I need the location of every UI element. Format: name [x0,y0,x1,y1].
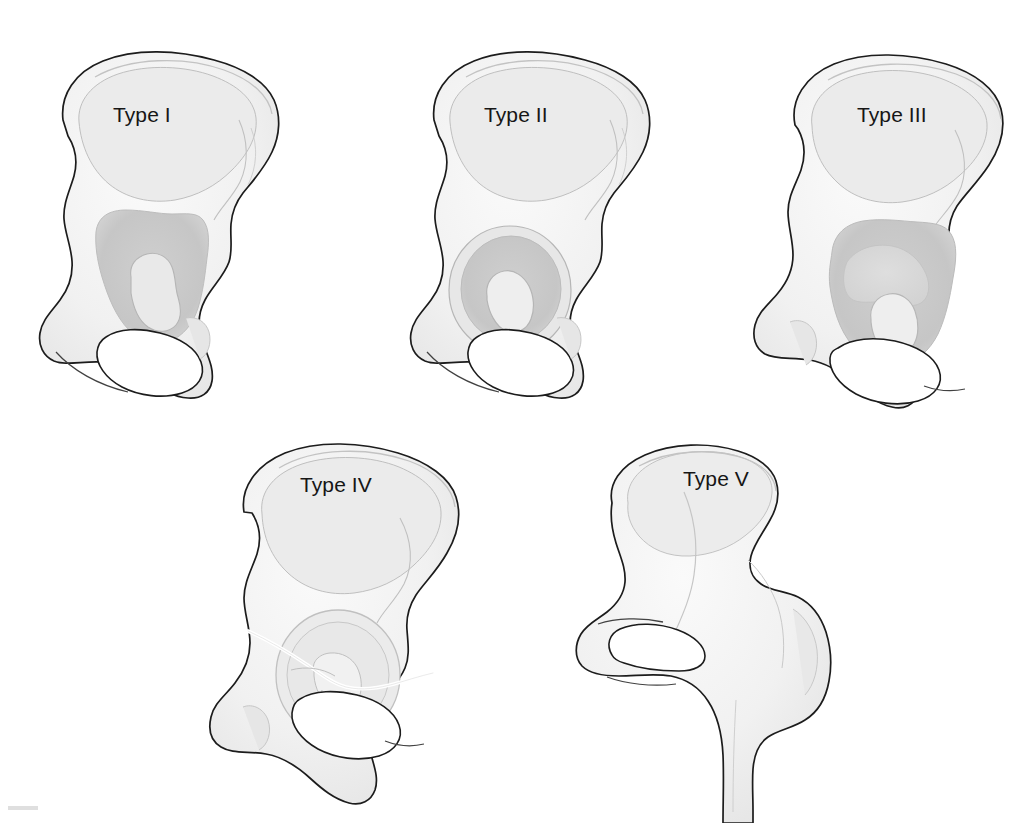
specimen-label-type-5: Type V [683,467,749,491]
specimen-label-type-3: Type III [857,103,927,127]
specimen-label-type-2: Type II [484,103,548,127]
specimen-label-type-1: Type I [113,103,171,127]
scan-artifact-mark [8,806,38,810]
specimen-label-type-4: Type IV [300,473,372,497]
